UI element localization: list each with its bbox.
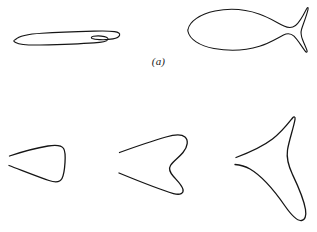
thin-lens-curve <box>6 18 124 58</box>
figure-panel-a: (a) <box>0 0 317 116</box>
chevron-wave-curve <box>118 130 198 202</box>
figure-panel-b: (b) <box>0 116 317 232</box>
three-point-star-curve <box>234 116 317 226</box>
figure-root: (a) (b) <box>0 0 317 232</box>
rounded-triangle-curve <box>8 134 76 194</box>
panel-a-label: (a) <box>0 55 317 67</box>
fish-curve <box>182 4 310 56</box>
